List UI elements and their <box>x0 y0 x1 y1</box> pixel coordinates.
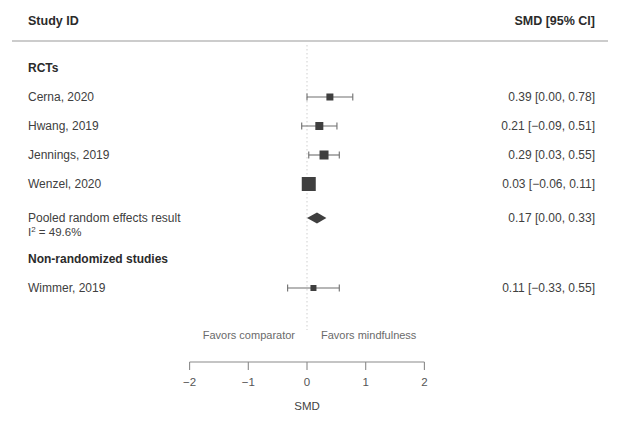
favors-comparator-label: Favors comparator <box>203 329 296 341</box>
column-header-smd-ci: SMD [95% CI] <box>514 14 595 28</box>
x-axis-title: SMD <box>294 400 320 412</box>
estimate-cerna-2020: 0.39 [0.00, 0.78] <box>508 90 595 104</box>
estimate-hwang-2019: 0.21 [−0.09, 0.51] <box>501 119 595 133</box>
effect-marker-wimmer-2019 <box>310 285 316 291</box>
estimate-wimmer-2019: 0.11 [−0.33, 0.55] <box>502 281 595 295</box>
effect-marker-cerna-2020 <box>326 94 333 101</box>
pooled-diamond <box>307 213 326 224</box>
x-axis-tick-label-1: −1 <box>242 376 255 388</box>
pooled-estimate: 0.17 [0.00, 0.33] <box>508 211 595 225</box>
effect-marker-jennings-2019 <box>320 151 329 160</box>
x-axis-tick-label-0: −2 <box>183 376 196 388</box>
favors-mindfulness-label: Favors mindfulness <box>321 329 417 341</box>
forest-plot-figure: Study IDSMD [95% CI]RCTsCerna, 20200.39 … <box>0 0 622 431</box>
x-axis-tick-label-4: 2 <box>421 376 427 388</box>
effect-marker-wenzel-2020 <box>302 177 316 191</box>
study-label-wenzel-2020: Wenzel, 2020 <box>28 177 101 191</box>
estimate-jennings-2019: 0.29 [0.03, 0.55] <box>508 148 595 162</box>
x-axis-tick-label-3: 1 <box>362 376 368 388</box>
effect-marker-hwang-2019 <box>315 122 323 130</box>
group-heading-rcts: RCTs <box>28 61 59 75</box>
forest-plot-page: Study IDSMD [95% CI]RCTsCerna, 20200.39 … <box>0 0 622 431</box>
pooled-label: Pooled random effects result <box>28 211 181 225</box>
x-axis-tick-label-2: 0 <box>304 376 310 388</box>
column-header-study-id: Study ID <box>28 14 79 28</box>
study-label-hwang-2019: Hwang, 2019 <box>28 119 99 133</box>
group-heading-non-randomized-studies: Non-randomized studies <box>28 252 168 266</box>
estimate-wenzel-2020: 0.03 [−0.06, 0.11] <box>502 177 595 191</box>
study-label-wimmer-2019: Wimmer, 2019 <box>28 281 106 295</box>
study-label-cerna-2020: Cerna, 2020 <box>28 90 94 104</box>
pooled-heterogeneity: I2 = 49.6% <box>28 225 81 238</box>
study-label-jennings-2019: Jennings, 2019 <box>28 148 110 162</box>
